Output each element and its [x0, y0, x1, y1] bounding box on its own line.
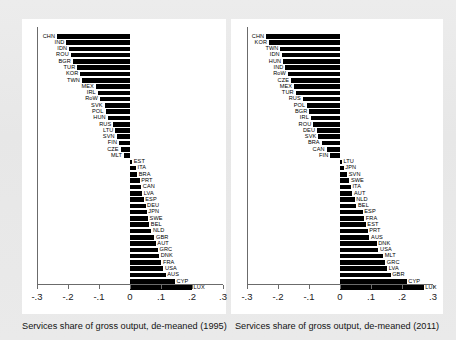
bar-series-2011: CHNKORTWNIDNHUNINDRoWCZEMEXTURRUSPOLBGRI…: [231, 19, 443, 314]
bar-row: EST: [231, 222, 443, 227]
bar: [130, 266, 163, 271]
bar-row: CAN: [22, 185, 226, 190]
bar-row: AUT: [231, 191, 443, 196]
x-tick-label: .3: [429, 291, 437, 302]
bar-label: LUX: [425, 285, 456, 291]
bar-row: SVK: [22, 103, 226, 108]
bar: [340, 285, 424, 290]
bar: [130, 172, 137, 177]
x-tick-label: -.1: [93, 291, 104, 302]
bar-row: EST: [22, 160, 226, 165]
bar-row: SWE: [22, 216, 226, 221]
bar-label: FIN: [288, 153, 328, 159]
bar-row: MEX: [22, 84, 226, 89]
bar: [119, 141, 130, 146]
bar-row: RoW: [231, 72, 443, 77]
bar-row: MEX: [231, 84, 443, 89]
bar-row: PRT: [231, 229, 443, 234]
bar: [340, 204, 356, 209]
bar-row: LUX: [231, 285, 443, 290]
bar-row: LVA: [231, 266, 443, 271]
x-tick-label: .1: [157, 291, 165, 302]
bar-row: GBR: [22, 235, 226, 240]
x-axis-title-2011: Services share of gross output, de-meane…: [231, 321, 443, 331]
bar-label: TWN: [40, 78, 80, 84]
bar-row: BEL: [22, 222, 226, 227]
bar: [340, 197, 355, 202]
bar-label: IRL: [269, 115, 309, 121]
bar: [285, 65, 340, 70]
bar-label: TUR: [254, 90, 294, 96]
bar-row: IND: [22, 40, 226, 45]
bar-row: PRT: [22, 178, 226, 183]
x-tick-label: -.3: [241, 291, 252, 302]
x-tick-label: -.3: [31, 291, 42, 302]
bar: [106, 109, 130, 114]
bar: [340, 273, 391, 278]
bar: [283, 59, 340, 64]
x-tick: [340, 285, 341, 289]
bar: [313, 122, 340, 127]
bar-row: RoW: [22, 97, 226, 102]
x-tick-label: -.2: [62, 291, 73, 302]
bar: [117, 134, 130, 139]
bar-row: ROU: [22, 53, 226, 58]
bar: [66, 40, 130, 45]
x-tick: [223, 285, 224, 289]
bar-row: TWN: [22, 78, 226, 83]
bar-row: GRC: [231, 260, 443, 265]
bar-row: HUN: [231, 59, 443, 64]
bar-row: JPN: [22, 210, 226, 215]
bar-row: NLD: [231, 197, 443, 202]
x-axis-title-1995: Services share of gross output, de-meane…: [22, 321, 226, 331]
bar-row: CZE: [231, 78, 443, 83]
bar: [124, 153, 130, 158]
x-tick-label: .2: [188, 291, 196, 302]
bar: [130, 160, 132, 165]
bar-row: BGR: [22, 59, 226, 64]
bar: [340, 241, 377, 246]
bar: [317, 128, 340, 133]
bar: [318, 134, 340, 139]
bar-row: FRA: [231, 216, 443, 221]
bar-row: CAN: [231, 147, 443, 152]
bar: [77, 65, 130, 70]
bar: [115, 128, 130, 133]
y-axis-line-2011: [247, 27, 248, 284]
bar-row: RUS: [231, 97, 443, 102]
x-tick: [99, 285, 100, 289]
bar-row: GRC: [22, 248, 226, 253]
bar: [340, 235, 369, 240]
bar: [307, 103, 340, 108]
bar: [296, 91, 340, 96]
bar-row: BRA: [22, 172, 226, 177]
bar-row: SVN: [22, 134, 226, 139]
bar-row: IDN: [22, 47, 226, 52]
bar: [340, 216, 364, 221]
bar-row: FRA: [22, 260, 226, 265]
bar-row: AUS: [22, 273, 226, 278]
bar: [73, 59, 130, 64]
bar: [340, 222, 366, 227]
bar-row: JPN: [231, 166, 443, 171]
bar: [340, 254, 383, 259]
bar: [130, 260, 161, 265]
bar-row: ESP: [22, 197, 226, 202]
bar-row: SVK: [231, 134, 443, 139]
bar-label: AUS: [167, 272, 207, 278]
x-tick-label: .3: [219, 291, 227, 302]
bar-row: DEU: [231, 128, 443, 133]
bar: [130, 241, 156, 246]
bar-label: GBR: [392, 272, 432, 278]
y-axis-line-1995: [37, 27, 38, 284]
bar-row: LUX: [22, 285, 226, 290]
bar: [108, 116, 130, 121]
bar-label: HUN: [66, 115, 106, 121]
bar-row: ROU: [231, 122, 443, 127]
bar-row: ITA: [22, 166, 226, 171]
bar: [130, 279, 175, 284]
bar-row: GBR: [231, 273, 443, 278]
bar: [340, 248, 378, 253]
bar-row: ITA: [231, 185, 443, 190]
bar-row: AUT: [22, 241, 226, 246]
